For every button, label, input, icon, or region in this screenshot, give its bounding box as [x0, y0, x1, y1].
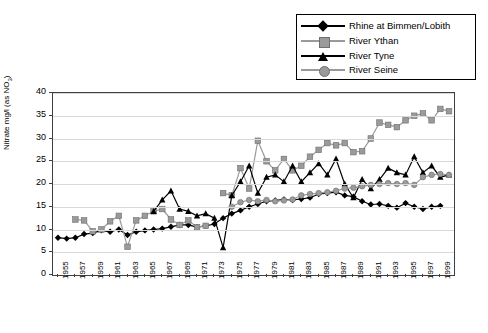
x-axis-tick	[352, 274, 353, 277]
data-point	[298, 193, 304, 199]
data-point	[272, 198, 278, 204]
chart-legend: Rhine at Bimmen/Lobith River Ythan River…	[296, 14, 476, 80]
y-axis-tick	[49, 229, 52, 230]
data-point	[125, 244, 131, 250]
x-axis-tick-label: 1975	[235, 261, 244, 279]
y-axis-tick	[49, 251, 52, 252]
x-axis-tick	[144, 274, 145, 277]
data-point	[402, 200, 408, 206]
x-axis-tick	[335, 274, 336, 277]
data-point	[55, 234, 61, 240]
x-axis-tick-label: 1997	[426, 261, 435, 279]
data-point	[168, 187, 174, 193]
data-point	[81, 218, 87, 224]
x-axis-tick	[161, 274, 162, 277]
data-point	[394, 169, 400, 175]
gridline	[53, 207, 454, 208]
circle-marker-icon	[319, 66, 330, 77]
data-point	[290, 197, 296, 203]
data-point	[264, 197, 270, 203]
data-point	[385, 165, 391, 171]
x-axis-tick	[248, 274, 249, 277]
x-axis-tick-label: 1981	[287, 261, 296, 279]
x-axis-tick-label: 1995	[409, 261, 418, 279]
x-axis-tick-label: 1989	[356, 261, 365, 279]
x-axis-tick	[422, 274, 423, 277]
gridline	[53, 116, 454, 117]
gridline	[53, 184, 454, 185]
x-axis-tick-label: 1993	[391, 261, 400, 279]
x-axis-tick-label: 1991	[374, 261, 383, 279]
y-axis-tick	[49, 92, 52, 93]
legend-swatch	[301, 35, 345, 47]
legend-item-ythan: River Ythan	[301, 33, 398, 48]
data-point	[237, 207, 243, 213]
data-point	[203, 210, 209, 216]
triangle-marker-icon	[318, 52, 328, 61]
x-axis-tick	[283, 274, 284, 277]
y-axis-tick-label: 0	[16, 268, 46, 278]
legend-label: River Ythan	[349, 35, 398, 46]
data-point	[342, 186, 348, 192]
data-point	[63, 235, 69, 241]
data-point	[403, 118, 409, 124]
data-point	[429, 172, 435, 178]
data-point	[133, 218, 139, 224]
data-point	[81, 231, 87, 237]
y-axis-tick	[49, 115, 52, 116]
x-axis-tick	[405, 274, 406, 277]
data-point	[325, 140, 331, 146]
data-point	[246, 162, 252, 168]
data-point	[220, 190, 226, 196]
x-axis-tick	[231, 274, 232, 277]
x-axis-tick	[387, 274, 388, 277]
data-point	[359, 148, 365, 154]
x-axis-tick	[439, 274, 440, 277]
data-point	[333, 143, 339, 149]
data-point	[289, 162, 295, 168]
x-axis-tick	[74, 274, 75, 277]
data-point	[351, 185, 357, 191]
data-point	[246, 186, 252, 192]
legend-item-tyne: River Tyne	[301, 48, 394, 63]
legend-swatch	[301, 20, 345, 32]
x-axis-tick-label: 1999	[443, 261, 452, 279]
y-axis-tick-label: 35	[16, 109, 46, 119]
y-axis-tick-label: 40	[16, 86, 46, 96]
x-axis-tick	[318, 274, 319, 277]
y-axis-tick-label: 5	[16, 245, 46, 255]
data-point	[238, 165, 244, 171]
data-point	[428, 162, 434, 168]
x-axis-tick-label: 1967	[165, 261, 174, 279]
data-point	[446, 172, 452, 178]
data-point	[72, 234, 78, 240]
data-point	[246, 197, 252, 203]
x-axis-tick-label: 1979	[270, 261, 279, 279]
gridline	[53, 252, 454, 253]
gridline	[53, 139, 454, 140]
data-point	[211, 215, 217, 221]
data-point	[333, 188, 339, 194]
plot-area	[52, 92, 455, 276]
data-point	[220, 215, 226, 221]
data-point	[411, 153, 417, 159]
legend-item-rhine: Rhine at Bimmen/Lobith	[301, 18, 450, 33]
gridline	[53, 93, 454, 94]
data-point	[385, 122, 391, 128]
y-axis-title: Nitrate mg/l (as NO3)	[2, 136, 13, 150]
x-axis-tick-label: 1965	[148, 261, 157, 279]
data-point	[255, 190, 261, 196]
x-axis-tick	[213, 274, 214, 277]
data-point	[394, 124, 400, 130]
data-point	[316, 147, 322, 153]
data-point	[359, 198, 365, 204]
series-4	[229, 171, 452, 209]
gridline	[53, 161, 454, 162]
y-axis-tick	[49, 206, 52, 207]
series-2	[73, 106, 452, 249]
data-point	[316, 190, 322, 196]
data-point	[203, 223, 209, 229]
data-point	[220, 244, 226, 250]
legend-swatch	[301, 50, 345, 62]
data-point	[420, 174, 426, 180]
